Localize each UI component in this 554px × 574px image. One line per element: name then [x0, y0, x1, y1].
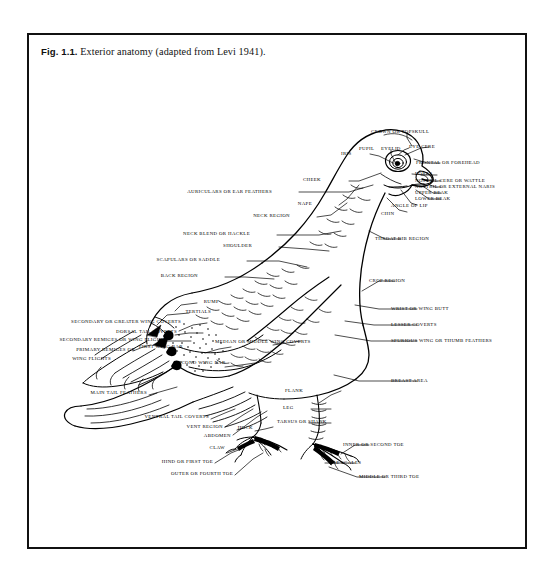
label-layer: CROWN OR TOPSKULL PUPIL EYELID EYE CERE …: [29, 35, 525, 547]
label-cheek: CHEEK: [29, 178, 321, 183]
label-back-region: BACK REGION: [29, 274, 198, 279]
label-tarsus-or-shank: TARSUS OR SHANK: [277, 420, 327, 425]
label-nape: NAPE: [29, 202, 312, 207]
label-primary-remiges-or: PRIMARY REMIGES OR: [29, 348, 135, 353]
label-wing-flights: WING FLIGHTS: [29, 357, 111, 362]
label-pupil: PUPIL: [359, 147, 374, 152]
label-shoulder: SHOULDER: [29, 244, 252, 249]
label-chin: CHIN: [381, 212, 394, 217]
label-secondary-remiges-or-wing-flights: SECONDARY REMIGES OR WING FLIGHTS: [29, 338, 167, 343]
label-claw: CLAW: [29, 446, 225, 451]
label-wrist-or-wing-butt: WRIST OR WING BUTT: [391, 307, 449, 312]
label-eye-cere: EYE CERE: [409, 145, 435, 150]
label-scapulars-or-saddle: SCAPULARS OR SADDLE: [29, 258, 220, 263]
label-iris: IRIS: [341, 152, 352, 157]
label-inner-or-second-toe: INNER OR SECOND TOE: [343, 443, 404, 448]
label-toe-scales: TOE SCALES: [329, 461, 361, 466]
label-frontal-or-forehead: FRONTAL OR FOREHEAD: [416, 161, 480, 166]
label-ventral-tail-coverts: VENTRAL TAIL COVERTS: [29, 415, 209, 420]
label-median-or-middle-wing-coverts: MEDIAN OR MIDDLE WING COVERTS: [215, 340, 311, 345]
label-neck-region: NECK REGION: [29, 214, 290, 219]
label-tertials: TERTIALS: [29, 310, 211, 315]
label-throat-bib-region: THROAT BIB REGION: [375, 237, 429, 242]
label-first-wing-bar: FIRST WING BAR: [139, 345, 183, 350]
label-secondary-or-greater-wing-coverts: SECONDARY OR GREATER WING COVERTS: [29, 320, 181, 325]
label-auriculars-or-ear-feathers: AURICULARS OR EAR FEATHERS: [29, 190, 272, 195]
label-dorsal-tail-coverts: DORSAL TAIL COVERTS: [29, 330, 177, 335]
label-flank: FLANK: [285, 389, 303, 394]
label-rump: RUMP: [29, 300, 219, 305]
page-canvas: Fig. 1.1. Exterior anatomy (adapted from…: [0, 0, 554, 574]
label-leg: LEG: [283, 406, 294, 411]
label-crown-or-topskull: CROWN OR TOPSKULL: [371, 130, 429, 135]
label-eyelid: EYELID: [381, 147, 401, 152]
label-angle-of-lip: ANGLE OF LIP: [391, 204, 428, 209]
label-crop-region: CROP REGION: [369, 279, 405, 284]
label-lesser-coverts: LESSER COVERTS: [391, 323, 437, 328]
label-lores: LORES: [415, 172, 432, 177]
label-hind-or-first-toe: HIND OR FIRST TOE: [29, 460, 213, 465]
label-main-tail-feathers: MAIN TAIL FEATHERS: [29, 391, 147, 396]
label-lower-beak: LOWER BEAK: [415, 197, 450, 202]
label-hock: HOCK: [29, 426, 253, 431]
label-abdomen: ABDOMEN: [29, 434, 231, 439]
label-spurious-wing-or-thumb-feathers: SPURIOUS WING OR THUMB FEATHERS: [391, 339, 492, 344]
label-middle-or-third-toe: MIDDLE OR THIRD TOE: [359, 475, 419, 480]
label-second-wing-bar: SECOND WING BAR: [175, 361, 226, 366]
label-neck-blend-or-hackle: NECK BLEND OR HACKLE: [29, 232, 250, 237]
label-outer-or-fourth-toe: OUTER OR FOURTH TOE: [29, 472, 233, 477]
anatomy-illustration: CROWN OR TOPSKULL PUPIL EYELID EYE CERE …: [29, 35, 525, 547]
figure-frame: Fig. 1.1. Exterior anatomy (adapted from…: [27, 33, 527, 549]
label-breast-area: BREAST AREA: [391, 379, 428, 384]
